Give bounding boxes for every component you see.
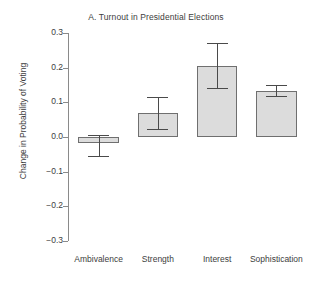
error-cap-upper <box>88 135 109 136</box>
error-bar-interest <box>217 43 218 88</box>
x-axis-label-sophistication: Sophistication <box>226 254 312 264</box>
error-cap-lower <box>207 88 228 89</box>
error-cap-lower <box>88 156 109 157</box>
chart-container: A. Turnout in Presidential Elections Cha… <box>0 0 312 295</box>
bar-sophistication <box>256 91 296 137</box>
error-cap-lower <box>147 129 168 130</box>
error-bar-sophistication <box>276 85 277 97</box>
error-cap-lower <box>266 96 287 97</box>
error-cap-upper <box>147 97 168 98</box>
error-cap-upper <box>266 85 287 86</box>
error-cap-upper <box>207 43 228 44</box>
error-bar-strength <box>158 97 159 130</box>
error-bar-ambivalence <box>99 135 100 156</box>
bars-layer <box>0 0 312 295</box>
